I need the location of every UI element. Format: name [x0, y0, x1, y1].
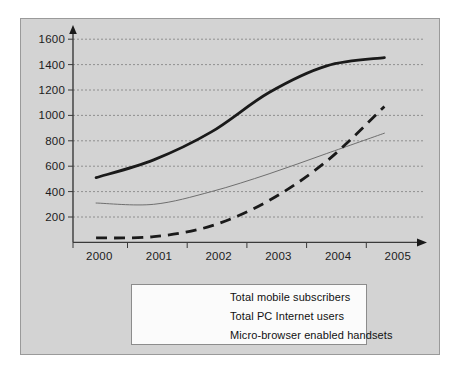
ytick-label-200: 200 [21, 211, 65, 223]
ytick-label-800: 800 [21, 135, 65, 147]
legend-label-total-pc-internet-users: Total PC Internet users [230, 310, 344, 322]
xtick-label-2002: 2002 [192, 250, 246, 262]
xtick-label-2005: 2005 [371, 250, 425, 262]
series-group [96, 58, 384, 238]
ytick-label-1200: 1200 [21, 84, 65, 96]
xtick-label-2001: 2001 [132, 250, 186, 262]
x-axis-ticks [73, 242, 366, 248]
y-axis-arrowhead [69, 25, 77, 34]
chart-figure: 200 400 600 800 1000 1200 1400 1600 2000… [20, 18, 440, 355]
ytick-label-1600: 1600 [21, 33, 65, 45]
x-axis-arrowhead [417, 238, 427, 246]
legend-label-total-mobile-subscribers: Total mobile subscribers [230, 291, 350, 303]
legend-entry-total-mobile-subscribers: Total mobile subscribers [132, 289, 366, 309]
series-micro-browser-enabled-handsets [96, 107, 384, 238]
y-axis-ticks [68, 39, 73, 217]
series-total-mobile-subscribers [96, 58, 384, 178]
xtick-label-2003: 2003 [251, 250, 305, 262]
ytick-label-1000: 1000 [21, 109, 65, 121]
legend-entry-micro-browser-enabled-handsets: Micro-browser enabled handsets [132, 327, 366, 347]
ytick-label-1400: 1400 [21, 59, 65, 71]
chart-legend: Total mobile subscribers Total PC Intern… [131, 284, 367, 345]
xtick-label-2004: 2004 [311, 250, 365, 262]
gridlines [73, 39, 425, 217]
series-total-pc-internet-users [96, 133, 384, 205]
legend-entry-total-pc-internet-users: Total PC Internet users [132, 308, 366, 328]
legend-label-micro-browser-enabled-handsets: Micro-browser enabled handsets [230, 329, 393, 341]
ytick-label-600: 600 [21, 160, 65, 172]
plot-area: 200 400 600 800 1000 1200 1400 1600 2000… [21, 19, 441, 356]
ytick-label-400: 400 [21, 186, 65, 198]
xtick-label-2000: 2000 [72, 250, 126, 262]
